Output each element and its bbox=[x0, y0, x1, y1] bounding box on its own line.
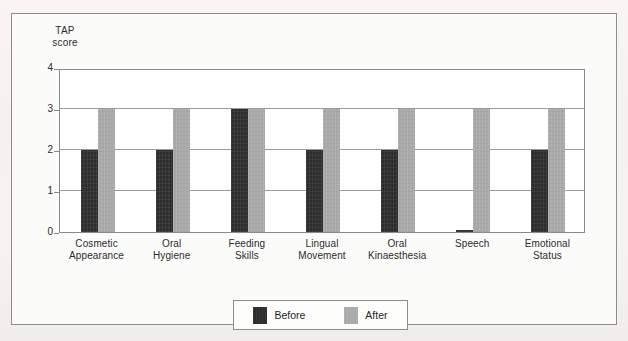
y-axis-title-line-1: TAP bbox=[36, 25, 94, 37]
x-axis-label-line: Appearance bbox=[55, 250, 139, 262]
x-axis-label: FeedingSkills bbox=[205, 238, 289, 262]
bar-after[interactable] bbox=[98, 109, 115, 232]
x-axis-label: Speech bbox=[430, 238, 514, 250]
y-axis-title-line-2: score bbox=[36, 37, 94, 49]
bar-before[interactable] bbox=[81, 150, 98, 232]
legend-swatch-after bbox=[344, 307, 358, 324]
y-tick-label-2: 2 bbox=[31, 144, 53, 155]
x-axis-label: LingualMovement bbox=[280, 238, 364, 262]
plot-area bbox=[59, 69, 585, 233]
y-tick-label-4: 4 bbox=[31, 62, 53, 73]
x-axis-label-line: Kinaesthesia bbox=[355, 250, 439, 262]
bar-after[interactable] bbox=[173, 109, 190, 232]
x-axis-label-line: Cosmetic bbox=[55, 238, 139, 250]
legend-swatch-before bbox=[253, 307, 267, 324]
y-tick-label-0: 0 bbox=[31, 226, 53, 237]
y-tick-label-3: 3 bbox=[31, 103, 53, 114]
x-axis-label-line: Movement bbox=[280, 250, 364, 262]
legend-entry-before[interactable]: Before bbox=[253, 307, 305, 324]
x-axis-label: CosmeticAppearance bbox=[55, 238, 139, 262]
bar-before[interactable] bbox=[531, 150, 548, 232]
x-axis-label-line: Speech bbox=[430, 238, 514, 250]
bar-after[interactable] bbox=[398, 109, 415, 232]
bar-group bbox=[81, 70, 115, 232]
x-axis-label-line: Oral bbox=[355, 238, 439, 250]
x-axis-label: OralKinaesthesia bbox=[355, 238, 439, 262]
bar-after[interactable] bbox=[248, 109, 265, 232]
bar-before[interactable] bbox=[381, 150, 398, 232]
x-axis-label: OralHygiene bbox=[130, 238, 214, 262]
bar-after[interactable] bbox=[473, 109, 490, 232]
bar-after[interactable] bbox=[323, 109, 340, 232]
bar-group bbox=[381, 70, 415, 232]
bar-group bbox=[456, 70, 490, 232]
bar-before[interactable] bbox=[156, 150, 173, 232]
legend-entry-after[interactable]: After bbox=[344, 307, 387, 324]
y-axis-title: TAP score bbox=[36, 25, 94, 49]
legend-label: After bbox=[365, 309, 387, 321]
x-axis-label-line: Emotional bbox=[505, 238, 589, 250]
bar-group bbox=[531, 70, 565, 232]
y-tick-mark-0 bbox=[54, 233, 59, 234]
chart-legend: BeforeAfter bbox=[233, 300, 408, 330]
bar-before[interactable] bbox=[306, 150, 323, 232]
legend-label: Before bbox=[274, 309, 305, 321]
x-axis-label-line: Feeding bbox=[205, 238, 289, 250]
bar-group bbox=[156, 70, 190, 232]
bar-before[interactable] bbox=[231, 109, 248, 232]
bar-before[interactable] bbox=[456, 230, 473, 232]
x-axis-label-line: Status bbox=[505, 250, 589, 262]
x-axis-label-line: Oral bbox=[130, 238, 214, 250]
bar-after[interactable] bbox=[548, 109, 565, 232]
bar-group bbox=[306, 70, 340, 232]
x-axis-label: EmotionalStatus bbox=[505, 238, 589, 262]
y-tick-label-1: 1 bbox=[31, 185, 53, 196]
x-axis-label-line: Hygiene bbox=[130, 250, 214, 262]
y-axis-ticks: 01234 bbox=[29, 69, 53, 233]
figure-frame: TAP score 01234 CosmeticAppearanceOralHy… bbox=[11, 13, 617, 325]
x-axis-label-line: Lingual bbox=[280, 238, 364, 250]
bar-group bbox=[231, 70, 265, 232]
x-axis-label-line: Skills bbox=[205, 250, 289, 262]
